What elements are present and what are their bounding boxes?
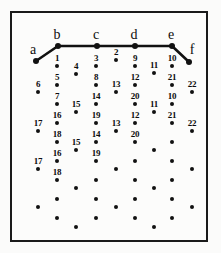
polyline-path	[0, 0, 221, 253]
boundary-polyline	[36, 46, 189, 62]
figure-root: 1234910115812216132271420101511161912211…	[0, 0, 221, 253]
